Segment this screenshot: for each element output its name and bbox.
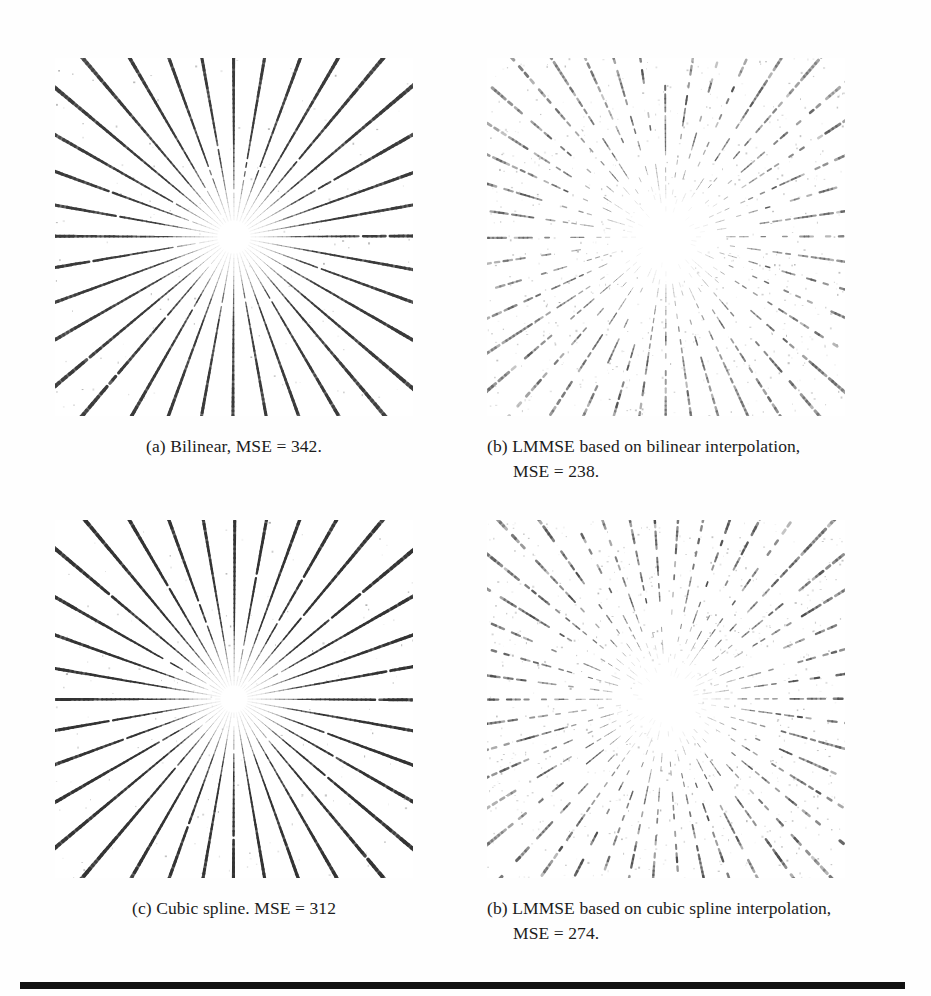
figure-caption-c: (c) Cubic spline. MSE = 312 (55, 896, 413, 921)
figure-panel-a: (a) Bilinear, MSE = 342. (55, 58, 413, 459)
figure-caption-a: (a) Bilinear, MSE = 342. (55, 434, 413, 459)
radial-test-pattern-d (487, 520, 845, 878)
figure-grid: (a) Bilinear, MSE = 342. (b) LMMSE based… (0, 0, 931, 960)
figure-page: (a) Bilinear, MSE = 342. (b) LMMSE based… (0, 0, 931, 996)
radial-test-pattern-a (55, 58, 413, 416)
figure-panel-d: (b) LMMSE based on cubic spline interpol… (487, 520, 905, 946)
radial-test-pattern-c (55, 520, 413, 878)
radial-test-pattern-b (487, 58, 845, 416)
page-bottom-rule (20, 982, 905, 989)
figure-panel-b: (b) LMMSE based on bilinear interpolatio… (487, 58, 905, 484)
figure-caption-b: (b) LMMSE based on bilinear interpolatio… (487, 434, 905, 484)
figure-caption-d: (b) LMMSE based on cubic spline interpol… (487, 896, 905, 946)
figure-panel-c: (c) Cubic spline. MSE = 312 (55, 520, 413, 921)
